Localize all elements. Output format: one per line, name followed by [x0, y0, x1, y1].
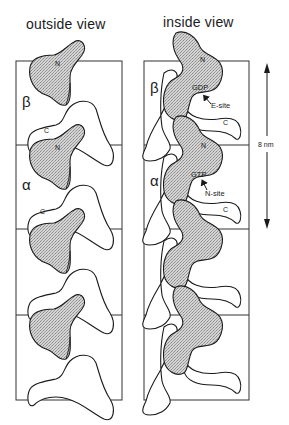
scale-bar-label: 8 nm [258, 141, 274, 148]
outside-beta-c-label: C [44, 127, 49, 134]
tubulin-protofilament-diagram: β α N N C C β α N N GDP GTP E-site N-sit… [0, 0, 289, 425]
inside-view-panel: β α N N GDP GTP E-site N-site C C [143, 32, 249, 415]
inside-alpha-label: α [150, 172, 159, 189]
outside-alpha-label: α [22, 176, 31, 193]
gdp-label: GDP [192, 83, 208, 92]
inside-beta-n-label: N [200, 56, 205, 63]
inside-beta-c-label: C [223, 119, 228, 126]
inside-alpha-c-label: C [223, 206, 228, 213]
gtp-label: GTP [191, 170, 206, 179]
n-site-label: N-site [205, 189, 225, 198]
outside-alpha-n-label: N [55, 144, 60, 151]
scale-bar: 8 nm [258, 63, 274, 229]
e-site-label: E-site [211, 101, 230, 110]
outside-beta-n-label: N [55, 60, 60, 67]
inside-alpha-n-label: N [201, 142, 206, 149]
outside-beta-label: β [22, 93, 31, 110]
arrow-up-icon [264, 63, 270, 73]
arrow-down-icon [264, 219, 270, 229]
outside-alpha-c-label: C [40, 208, 45, 215]
inside-beta-label: β [150, 79, 159, 96]
outside-view-panel: β α N N C C [16, 41, 122, 420]
